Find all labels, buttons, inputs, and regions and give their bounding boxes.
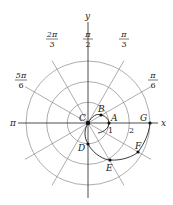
label-F: F bbox=[134, 141, 142, 151]
label-D: D bbox=[77, 143, 85, 153]
point-G bbox=[148, 121, 151, 124]
point-E bbox=[108, 158, 111, 161]
angle-num: 2π bbox=[46, 30, 58, 39]
x-axis-label: x bbox=[161, 118, 166, 128]
y-axis-label: y bbox=[84, 11, 91, 21]
label-B: B bbox=[97, 104, 105, 114]
angle-label-pi: π bbox=[9, 118, 17, 128]
polar-graph-svg: C B A D E F G 1 2 x y π 2 π 3 π 6 2π 3 5… bbox=[0, 0, 173, 205]
angle-label-pi-over-3: π 3 bbox=[119, 30, 129, 49]
angle-den: 3 bbox=[121, 40, 126, 49]
label-C: C bbox=[79, 113, 86, 123]
polar-diagram: C B A D E F G 1 2 x y π 2 π 3 π 6 2π 3 5… bbox=[0, 0, 173, 205]
angle-den: 2 bbox=[85, 40, 90, 49]
label-G: G bbox=[140, 113, 147, 123]
label-E: E bbox=[105, 163, 113, 173]
angle-label-pi-over-6: π 6 bbox=[148, 71, 158, 90]
angle-den: 3 bbox=[49, 40, 54, 49]
angle-num: 5π bbox=[16, 71, 27, 80]
label-A: A bbox=[110, 113, 118, 123]
angle-den: 6 bbox=[150, 81, 155, 90]
point-D bbox=[86, 142, 89, 145]
point-C bbox=[86, 121, 90, 125]
radius-label-1: 1 bbox=[108, 126, 113, 135]
radius-label-2: 2 bbox=[129, 126, 134, 135]
angle-den: 6 bbox=[18, 81, 23, 90]
angle-label-2pi-over-3: 2π 3 bbox=[46, 30, 58, 49]
angle-label-pi-over-2: π 2 bbox=[83, 30, 93, 49]
angle-num: π bbox=[120, 30, 127, 39]
angle-label-5pi-over-6: 5π 6 bbox=[15, 71, 27, 90]
angle-num: π bbox=[149, 71, 156, 80]
angle-num: π bbox=[84, 30, 91, 39]
